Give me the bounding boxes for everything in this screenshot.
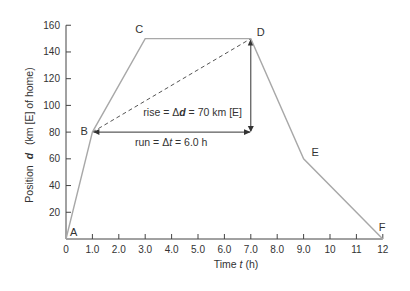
y-tick-label: 20 [49,207,61,218]
y-tick-label: 60 [49,153,61,164]
point-label-a: A [70,226,78,238]
x-tick-label: 12 [377,244,389,255]
rise-arrow-tail-icon [248,126,254,132]
x-tick-label: 5.0 [191,244,205,255]
axis-ticks: 01.02.03.04.05.06.07.08.09.0101112204060… [43,20,388,255]
y-tick-label: 40 [49,180,61,191]
y-tick-label: 160 [43,20,60,31]
point-label-c: C [135,23,143,35]
x-tick-label: 7.0 [244,244,258,255]
y-axis-title: Positiond(km [E] of home) [23,67,35,202]
x-tick-label: 6.0 [217,244,231,255]
x-tick-label: 9.0 [297,244,311,255]
x-tick-label: 3.0 [138,244,152,255]
rise-run-annotations [92,39,253,136]
x-axis-title: Time t (h) [214,258,259,270]
point-label-f: F [379,221,386,233]
x-tick-label: 10 [324,244,336,255]
x-tick-label: 1.0 [85,244,99,255]
point-labels: ABCDEF [70,23,386,238]
y-tick-label: 140 [43,46,60,57]
y-tick-label: 80 [49,127,61,138]
run-label: run = Δt = 6.0 h [135,136,208,148]
y-tick-label: 100 [43,100,60,111]
data-series-line [66,39,383,239]
x-tick-label: 4.0 [165,244,179,255]
position-time-chart: 01.02.03.04.05.06.07.08.09.0101112204060… [0,0,410,291]
x-tick-label: 2.0 [112,244,126,255]
point-label-b: B [80,125,87,137]
position-time-line [66,39,383,239]
point-label-e: E [312,146,319,158]
x-tick-label: 11 [351,244,362,255]
x-tick-label: 8.0 [270,244,284,255]
point-label-d: D [257,26,265,38]
axis-titles: Time t (h) Positiond(km [E] of home) ris… [23,67,258,270]
x-tick-label: 0 [63,244,69,255]
rise-label: rise = Δd = 70 km [E] [143,106,242,118]
secant-dashed-line [92,39,250,133]
y-tick-label: 120 [43,73,60,84]
